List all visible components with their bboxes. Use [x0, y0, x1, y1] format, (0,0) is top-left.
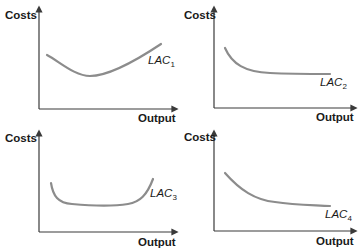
panel-lac3: Costs Output LAC3	[5, 132, 177, 248]
panel-lac1: Costs Output LAC1	[5, 9, 176, 124]
lac1-curve	[47, 44, 161, 76]
x-axis-label: Output	[316, 235, 354, 247]
lac4-curve	[225, 173, 330, 206]
y-axis-label: Costs	[184, 9, 216, 21]
y-axis-label: Costs	[5, 9, 37, 21]
lac3-label: LAC3	[150, 187, 177, 202]
x-axis-label: Output	[316, 111, 354, 123]
y-axis-label: Costs	[5, 132, 37, 144]
y-axis-label: Costs	[184, 131, 216, 143]
lac2-curve	[225, 48, 330, 74]
panel-lac2: Costs Output LAC2	[184, 9, 354, 123]
panel-lac4: Costs Output LAC4	[184, 131, 354, 247]
lac2-label: LAC2	[320, 76, 347, 91]
lac3-curve	[51, 179, 153, 206]
x-axis-label: Output	[138, 112, 176, 124]
lac-chart-grid: Costs Output LAC1 Costs Output LAC2 Cost…	[0, 0, 360, 252]
lac4-label: LAC4	[325, 208, 352, 223]
x-axis-label: Output	[138, 236, 176, 248]
lac1-label: LAC1	[148, 54, 175, 69]
